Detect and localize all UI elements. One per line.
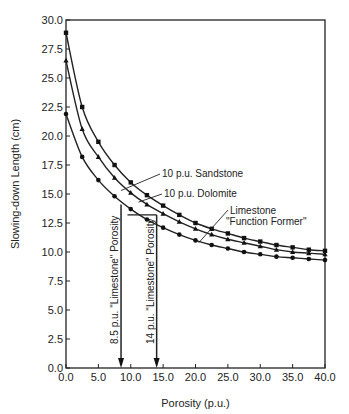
circle-marker xyxy=(242,250,247,255)
circle-marker xyxy=(64,112,69,117)
porosity-14-label: 14 p.u. "Limestone" Porosity xyxy=(145,219,156,345)
triangle-marker xyxy=(63,58,68,63)
x-axis-label: Porosity (p.u.) xyxy=(161,397,229,409)
circle-marker xyxy=(258,252,263,257)
sandstone-label: 10 p.u. Sandstone xyxy=(162,168,244,179)
circle-marker xyxy=(226,246,231,251)
arrow-head-icon xyxy=(154,358,160,368)
circle-marker xyxy=(209,243,214,248)
circle-marker xyxy=(128,207,133,212)
square-marker xyxy=(242,236,246,240)
x-tick-label: 10.0 xyxy=(120,371,141,383)
porosity-85-label: 8.5 p.u. "Limestone" Porosity xyxy=(109,216,120,344)
y-tick-label: 2.5 xyxy=(48,333,63,345)
square-marker xyxy=(161,203,165,207)
sandstone-leader xyxy=(121,174,160,191)
square-marker xyxy=(145,193,149,197)
y-tick-label: 20.0 xyxy=(42,130,63,142)
circle-marker xyxy=(80,155,85,160)
x-tick-label: 0.0 xyxy=(58,371,73,383)
square-marker xyxy=(290,245,294,249)
circle-marker xyxy=(323,258,328,263)
y-tick-label: 30.0 xyxy=(42,14,63,26)
y-tick-label: 5.0 xyxy=(48,304,63,316)
x-tick-label: 20.0 xyxy=(185,371,206,383)
square-marker xyxy=(177,213,181,217)
square-marker xyxy=(96,140,100,144)
square-marker xyxy=(80,105,84,109)
dolomite-label: 10 p.u. Dolomite xyxy=(164,188,237,199)
arrow-head-icon xyxy=(118,358,124,368)
y-tick-label: 10.0 xyxy=(42,246,63,258)
x-tick-label: 30.0 xyxy=(250,371,271,383)
square-marker xyxy=(258,239,262,243)
y-tick-label: 27.5 xyxy=(42,43,63,55)
y-tick-label: 12.5 xyxy=(42,217,63,229)
x-tick-label: 5.0 xyxy=(91,371,106,383)
circle-marker xyxy=(112,194,117,199)
x-tick-label: 35.0 xyxy=(282,371,303,383)
y-axis-label: Slowing-down Length (cm) xyxy=(9,119,21,249)
limestone-label: Limestone xyxy=(230,205,277,216)
square-marker xyxy=(129,180,133,184)
x-tick-label: 15.0 xyxy=(152,371,173,383)
circle-marker xyxy=(307,257,312,262)
square-marker xyxy=(193,221,197,225)
square-marker xyxy=(274,243,278,247)
y-tick-label: 15.0 xyxy=(42,188,63,200)
circle-marker xyxy=(177,232,182,237)
circle-marker xyxy=(193,238,198,243)
x-tick-label: 25.0 xyxy=(217,371,238,383)
circle-marker xyxy=(161,225,166,230)
circle-marker xyxy=(274,254,279,259)
x-tick-label: 40.0 xyxy=(314,371,335,383)
square-marker xyxy=(112,163,116,167)
circle-marker xyxy=(96,178,101,183)
y-tick-label: 22.5 xyxy=(42,101,63,113)
dolomite-leader xyxy=(139,194,162,202)
y-tick-label: 7.5 xyxy=(48,275,63,287)
square-marker xyxy=(64,31,68,35)
porosity-chart: 0.02.55.07.510.012.515.017.520.022.525.0… xyxy=(0,0,349,414)
triangle-marker xyxy=(80,126,85,131)
function-former-label: "Function Former" xyxy=(226,216,307,227)
y-tick-label: 17.5 xyxy=(42,159,63,171)
square-marker xyxy=(226,231,230,235)
circle-marker xyxy=(290,255,295,260)
y-tick-label: 25.0 xyxy=(42,72,63,84)
